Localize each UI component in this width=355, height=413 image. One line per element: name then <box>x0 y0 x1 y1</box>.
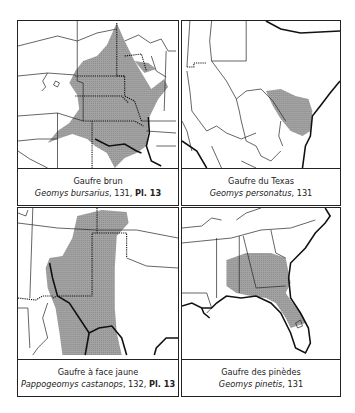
map-caption: Gaufre des pinèdes Geomys pinetis, 131 <box>182 359 340 396</box>
scientific-reference: Geomys pinetis, 131 <box>182 378 340 390</box>
map-illustration <box>182 208 340 359</box>
page-reference: , 132, <box>123 379 149 389</box>
scientific-name: Geomys personatus <box>210 188 292 198</box>
map-illustration <box>18 21 178 168</box>
range-map-panel-geomys-bursarius: Gaufre brun Geomys bursarius, 131, Pl. 1… <box>17 20 179 206</box>
range-map-panel-pappogeomys-castanops: Gaufre à face jaune Pappogeomys castanop… <box>17 207 179 397</box>
map-caption: Gaufre du Texas Geomys personatus, 131 <box>182 168 340 205</box>
common-name: Gaufre du Texas <box>182 175 340 187</box>
common-name: Gaufre à face jaune <box>18 366 178 378</box>
range-area <box>266 89 312 136</box>
scientific-reference: Pappogeomys castanops, 132, Pl. 13 <box>18 378 178 390</box>
common-name: Gaufre des pinèdes <box>182 366 340 378</box>
map-caption: Gaufre à face jaune Pappogeomys castanop… <box>18 359 178 396</box>
scientific-name: Geomys bursarius <box>35 188 109 198</box>
range-map <box>182 21 340 169</box>
common-name: Gaufre brun <box>18 175 178 187</box>
plate-reference: Pl. 13 <box>149 379 175 389</box>
page-reference: , 131 <box>291 188 312 198</box>
scientific-reference: Geomys bursarius, 131, Pl. 13 <box>18 187 178 199</box>
range-map <box>182 208 340 360</box>
range-area <box>226 253 305 328</box>
scientific-name: Pappogeomys castanops <box>21 379 123 389</box>
range-map <box>18 21 178 169</box>
page-reference: , 131, <box>109 188 135 198</box>
map-illustration <box>18 208 178 359</box>
map-illustration <box>182 21 340 168</box>
map-caption: Gaufre brun Geomys bursarius, 131, Pl. 1… <box>18 168 178 205</box>
scientific-reference: Geomys personatus, 131 <box>182 187 340 199</box>
plate-reference: Pl. 13 <box>135 188 161 198</box>
range-map <box>18 208 178 360</box>
page-reference: , 131 <box>282 379 303 389</box>
range-map-panel-geomys-personatus: Gaufre du Texas Geomys personatus, 131 <box>181 20 341 206</box>
range-map-panel-geomys-pinetis: Gaufre des pinèdes Geomys pinetis, 131 <box>181 207 341 397</box>
range-area <box>46 210 129 355</box>
scientific-name: Geomys pinetis <box>219 379 283 389</box>
